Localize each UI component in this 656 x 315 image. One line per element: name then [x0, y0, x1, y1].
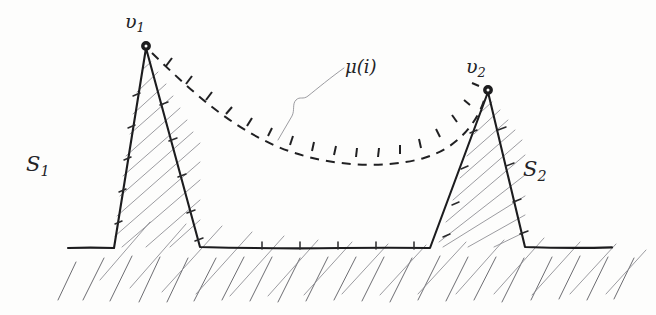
region-right-label: S2 — [523, 157, 546, 184]
peak1-summit-node — [142, 42, 150, 50]
mu-curve-label: μ(i) — [345, 56, 377, 77]
mu-curve — [152, 53, 485, 165]
mu-leader-line — [278, 68, 344, 140]
peak1-label: υ1 — [125, 10, 145, 35]
region-left-symbol: S — [26, 152, 40, 176]
diagram-canvas: υ1 υ2 S1 S2 μ(i) — [0, 0, 656, 315]
region-left-label: S1 — [26, 152, 49, 179]
hand-drawn-sketch — [0, 0, 656, 315]
ground-hatching — [58, 222, 646, 302]
peak2-summit-node — [484, 86, 492, 94]
terrain-outline — [68, 48, 612, 248]
peak2-subscript: 2 — [478, 65, 486, 80]
region-right-subscript: 2 — [537, 168, 546, 184]
peak1-subscript: 1 — [137, 20, 145, 35]
peak2-label: υ2 — [466, 55, 486, 80]
peak1-symbol: υ — [125, 10, 137, 32]
peak-edge-ticks — [115, 93, 528, 249]
region-right-symbol: S — [523, 157, 537, 181]
peak2-hatching — [439, 102, 525, 247]
peak2-symbol: υ — [466, 55, 478, 77]
region-left-subscript: 1 — [40, 163, 49, 179]
